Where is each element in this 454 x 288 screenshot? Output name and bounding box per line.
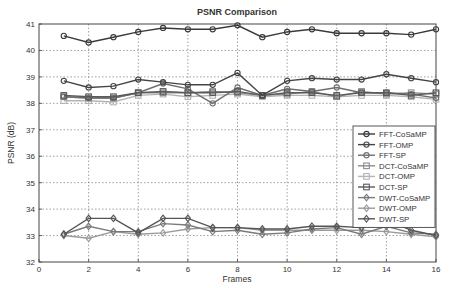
y-tick-label: 38 bbox=[26, 99, 35, 108]
x-tick-label: 14 bbox=[382, 265, 391, 274]
legend-label: FFT-CoSaMP bbox=[379, 130, 427, 139]
x-tick-label: 10 bbox=[283, 265, 292, 274]
y-tick-label: 41 bbox=[26, 20, 35, 29]
y-tick-label: 35 bbox=[26, 179, 35, 188]
x-tick-label: 6 bbox=[186, 265, 191, 274]
legend-item: DWT-OMP bbox=[358, 204, 417, 213]
legend-label: DCT-OMP bbox=[379, 172, 415, 181]
y-tick-label: 39 bbox=[26, 73, 35, 82]
x-tick-label: 16 bbox=[432, 265, 441, 274]
y-tick-label: 40 bbox=[26, 46, 35, 55]
x-tick-label: 8 bbox=[235, 265, 240, 274]
y-tick-label: 36 bbox=[26, 152, 35, 161]
legend-label: DWT-OMP bbox=[379, 204, 417, 213]
y-tick-label: 33 bbox=[26, 232, 35, 241]
legend-label: DCT-CoSaMP bbox=[379, 162, 428, 171]
y-tick-label: 34 bbox=[26, 205, 35, 214]
chart-canvas: PSNR Comparison Frames PSNR (dB) 0246810… bbox=[0, 0, 454, 288]
legend-label: DWT-CoSaMP bbox=[379, 194, 430, 203]
x-tick-label: 2 bbox=[86, 265, 91, 274]
y-tick-label: 37 bbox=[26, 126, 35, 135]
legend-label: FFT-SP bbox=[379, 151, 406, 160]
legend-label: DWT-SP bbox=[379, 215, 409, 224]
psnr-chart: PSNR Comparison Frames PSNR (dB) 0246810… bbox=[0, 0, 454, 288]
x-axis-label: Frames bbox=[223, 274, 252, 284]
x-tick-label: 0 bbox=[37, 265, 42, 274]
x-tick-label: 4 bbox=[136, 265, 141, 274]
legend: FFT-CoSaMPFFT-OMPFFT-SPDCT-CoSaMPDCT-OMP… bbox=[353, 126, 435, 227]
y-tick-label: 32 bbox=[26, 258, 35, 267]
x-tick-label: 12 bbox=[332, 265, 341, 274]
series-line bbox=[64, 25, 436, 42]
legend-label: DCT-SP bbox=[379, 183, 408, 192]
series-fft-cosamp bbox=[61, 23, 438, 45]
legend-label: FFT-OMP bbox=[379, 141, 413, 150]
y-axis-label: PSNR (dB) bbox=[6, 122, 16, 164]
chart-title: PSNR Comparison bbox=[197, 7, 277, 17]
